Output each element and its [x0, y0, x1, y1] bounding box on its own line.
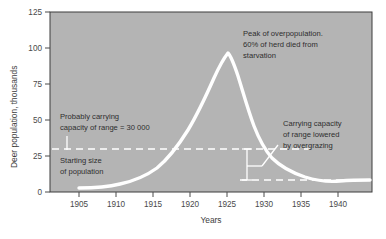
deer-population-figure: 125 100 75 50 25 0 Deer population, thou…	[0, 0, 386, 239]
y-tick-label-100: 100	[28, 44, 42, 53]
annotation-peak-line-1: Peak of overpopulation.	[243, 29, 323, 38]
annotation-lowered-line-1: Carrying capacity	[283, 119, 342, 128]
x-tick-label-1910: 1910	[107, 200, 126, 209]
annotation-lowered-line-2: of range lowered	[283, 130, 340, 139]
y-axis-ticks	[45, 12, 50, 192]
x-tick-label-1935: 1935	[292, 200, 311, 209]
annotation-capacity-line-1: Probably carrying	[60, 112, 119, 121]
chart-canvas: 125 100 75 50 25 0 Deer population, thou…	[0, 0, 386, 239]
x-axis-ticks	[79, 192, 338, 197]
y-tick-label-125: 125	[28, 8, 42, 17]
annotation-capacity-line-2: capacity of range = 30 000	[60, 123, 150, 132]
annotation-starting-line-2: of population	[60, 167, 104, 176]
annotation-peak-line-3: starvation	[243, 51, 276, 60]
annotation-lowered-line-3: by overgrazing	[283, 141, 333, 150]
y-tick-label-0: 0	[37, 188, 42, 197]
annotation-peak-line-2: 60% of herd died from	[243, 40, 318, 49]
x-tick-label-1915: 1915	[144, 200, 163, 209]
x-tick-label-1905: 1905	[70, 200, 89, 209]
y-axis-title: Deer population, thousands	[9, 66, 19, 168]
x-axis-title: Years	[200, 215, 221, 225]
y-tick-label-75: 75	[33, 80, 43, 89]
annotation-starting-line-1: Starting size	[60, 156, 102, 165]
y-tick-label-50: 50	[33, 116, 43, 125]
x-tick-label-1920: 1920	[181, 200, 200, 209]
x-tick-label-1940: 1940	[329, 200, 348, 209]
x-tick-label-1930: 1930	[255, 200, 274, 209]
plot-area-background	[50, 12, 372, 192]
x-tick-label-1925: 1925	[218, 200, 237, 209]
y-tick-label-25: 25	[33, 152, 43, 161]
